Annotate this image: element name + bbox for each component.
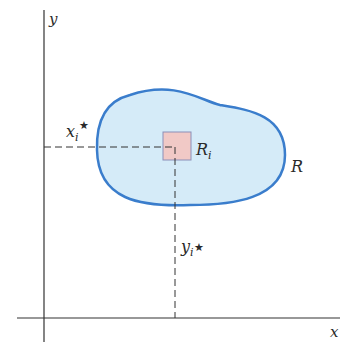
x-sample-label: xi★ xyxy=(66,119,89,144)
double-integral-diagram: y x R Ri xi★ yi★ xyxy=(0,0,340,342)
y-axis-label: y xyxy=(48,10,58,28)
x-axis-label: x xyxy=(330,323,339,341)
subrectangle-ri xyxy=(163,132,191,160)
y-sample-label: yi★ xyxy=(180,237,204,259)
region-label: R xyxy=(290,157,303,176)
